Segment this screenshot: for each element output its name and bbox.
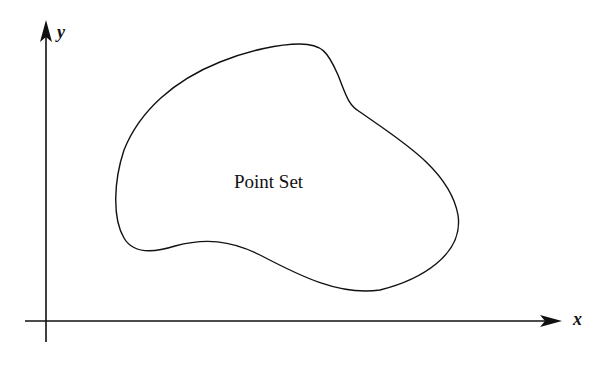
point-set-label: Point Set — [234, 171, 303, 193]
point-set-boundary — [116, 44, 459, 291]
x-axis-label: x — [573, 309, 582, 330]
y-axis-label: y — [57, 22, 65, 43]
